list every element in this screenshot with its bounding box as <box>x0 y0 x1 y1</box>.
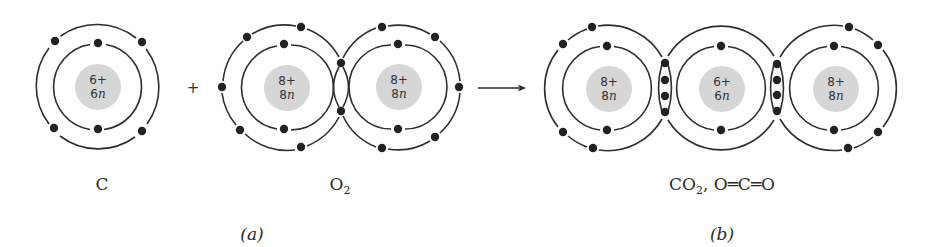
nucleus-charge-atom-1: 8+ <box>278 74 296 88</box>
nucleus-neutrons-left-oxygen: 8n <box>601 89 616 103</box>
nucleus-charge-left-oxygen: 8+ <box>600 75 618 89</box>
carbon-label: C <box>95 174 108 194</box>
double-bond-left <box>659 64 672 112</box>
shared-orbital <box>334 67 349 107</box>
carbon-dioxide-molecule: 8+ 8n 6+ 6n 8+ 8n <box>545 23 897 152</box>
nucleus-charge-carbon: 6+ <box>713 75 731 89</box>
nucleus-neutrons: 6n <box>90 87 105 101</box>
oxygen-molecule: 8+ 8n 8+ 8n <box>218 23 463 152</box>
nucleus-charge: 6+ <box>89 73 107 87</box>
nucleus-charge-atom-2: 8+ <box>390 73 408 87</box>
nucleus-neutrons-atom-1: 8n <box>279 88 294 102</box>
panel-label-b: (b) <box>710 224 734 244</box>
nucleus-neutrons-carbon: 6n <box>714 89 729 103</box>
double-bond-right <box>771 64 784 112</box>
electrons <box>218 23 463 152</box>
nucleus-neutrons-atom-2: 8n <box>391 87 406 101</box>
nucleus-neutrons-right-oxygen: 8n <box>828 89 843 103</box>
plus-sign: + <box>187 79 200 97</box>
bohr-model-reaction-diagram: 6+ 6n + 8+ 8n 8+ <box>0 0 934 247</box>
reaction-arrow <box>478 85 526 92</box>
oxygen-molecule-label: O2 <box>330 174 351 197</box>
carbon-dioxide-label: CO2, O═C═O <box>669 174 775 197</box>
nucleus-charge-right-oxygen: 8+ <box>827 75 845 89</box>
carbon-atom: 6+ 6n <box>36 24 159 148</box>
panel-label-a: (a) <box>240 224 263 244</box>
